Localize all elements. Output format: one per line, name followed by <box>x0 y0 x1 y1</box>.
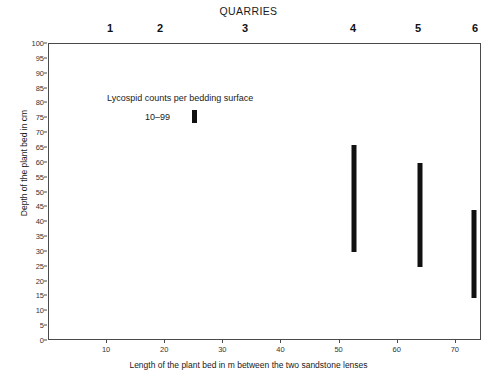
quarry-label-5: 5 <box>415 22 421 34</box>
data-bar-quarry-6 <box>471 210 476 298</box>
y-tick-mark <box>44 176 47 177</box>
plot-area: Lycospid counts per bedding surface 10–9… <box>48 43 481 340</box>
quarry-label-6: 6 <box>472 22 478 34</box>
legend-entry-label: 10–99 <box>145 112 170 122</box>
quarry-label-3: 3 <box>242 22 248 34</box>
x-tick-label: 50 <box>334 345 342 354</box>
y-tick-label: 10 <box>22 306 44 315</box>
y-tick-label: 55 <box>22 172 44 181</box>
chart-figure: QUARRIES 123456 Depth of the plant bed i… <box>0 0 497 381</box>
y-tick-label: 85 <box>22 83 44 92</box>
y-tick-mark <box>44 57 47 58</box>
x-tick-mark <box>455 340 456 343</box>
y-tick-label: 75 <box>22 113 44 122</box>
y-tick-mark <box>44 325 47 326</box>
y-tick-mark <box>44 87 47 88</box>
x-tick-label: 30 <box>218 345 226 354</box>
x-tick-mark <box>164 340 165 343</box>
x-tick-label: 10 <box>102 345 110 354</box>
x-tick-label: 20 <box>160 345 168 354</box>
y-tick-label: 35 <box>22 232 44 241</box>
legend-entry: 10–99 <box>107 110 407 126</box>
legend-title: Lycospid counts per bedding surface <box>107 93 407 103</box>
y-tick-label: 15 <box>22 291 44 300</box>
x-tick-mark <box>280 340 281 343</box>
y-tick-mark <box>44 146 47 147</box>
data-bar-quarry-4 <box>352 145 357 252</box>
y-tick-label: 5 <box>22 321 44 330</box>
y-tick-label: 95 <box>22 53 44 62</box>
y-tick-label: 45 <box>22 202 44 211</box>
y-tick-label: 100 <box>22 39 44 48</box>
y-tick-mark <box>44 161 47 162</box>
y-tick-label: 20 <box>22 276 44 285</box>
data-bar-quarry-5 <box>417 163 422 267</box>
y-tick-mark <box>44 295 47 296</box>
y-tick-label: 30 <box>22 246 44 255</box>
x-tick-label: 70 <box>451 345 459 354</box>
y-tick-mark <box>44 191 47 192</box>
x-axis-title: Length of the plant bed in m between the… <box>0 360 497 370</box>
y-tick-label: 60 <box>22 157 44 166</box>
y-tick-label: 90 <box>22 68 44 77</box>
quarry-label-4: 4 <box>350 22 356 34</box>
quarry-label-2: 2 <box>157 22 163 34</box>
y-tick-mark <box>44 206 47 207</box>
chart-title: QUARRIES <box>0 5 497 17</box>
quarry-label-1: 1 <box>107 22 113 34</box>
y-tick-label: 50 <box>22 187 44 196</box>
chart-legend: Lycospid counts per bedding surface 10–9… <box>107 93 407 126</box>
y-tick-mark <box>44 132 47 133</box>
x-tick-mark <box>106 340 107 343</box>
y-tick-mark <box>44 102 47 103</box>
y-tick-mark <box>44 72 47 73</box>
y-tick-mark <box>44 250 47 251</box>
y-tick-mark <box>44 280 47 281</box>
y-tick-mark <box>44 43 47 44</box>
y-tick-mark <box>44 265 47 266</box>
y-tick-mark <box>44 117 47 118</box>
y-tick-mark <box>44 310 47 311</box>
y-tick-mark <box>44 236 47 237</box>
y-tick-label: 25 <box>22 261 44 270</box>
y-tick-label: 40 <box>22 217 44 226</box>
x-tick-mark <box>222 340 223 343</box>
x-tick-label: 60 <box>393 345 401 354</box>
x-tick-label: 40 <box>276 345 284 354</box>
y-tick-label: 70 <box>22 128 44 137</box>
y-tick-mark <box>44 221 47 222</box>
y-tick-label: 65 <box>22 142 44 151</box>
x-tick-mark <box>397 340 398 343</box>
x-tick-mark <box>339 340 340 343</box>
y-tick-label: 0 <box>22 336 44 345</box>
y-tick-mark <box>44 340 47 341</box>
legend-color-swatch <box>192 110 197 123</box>
y-tick-label: 80 <box>22 98 44 107</box>
